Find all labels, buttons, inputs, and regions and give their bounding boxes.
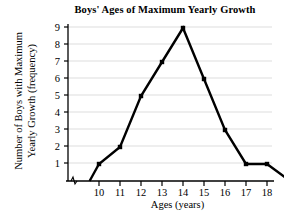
data-point-marker bbox=[97, 162, 101, 166]
data-point-marker bbox=[139, 94, 143, 98]
data-point-marker bbox=[244, 162, 248, 166]
data-point-marker bbox=[223, 128, 227, 132]
x-tick-label: 13 bbox=[157, 187, 168, 198]
x-axis-label: Ages (years) bbox=[80, 199, 275, 210]
data-point-marker bbox=[118, 145, 122, 149]
data-point-marker bbox=[202, 77, 206, 81]
x-tick-labels: 10 11 12 13 14 15 16 17 18 bbox=[94, 187, 273, 198]
x-axis-ticks bbox=[99, 181, 267, 186]
x-tick-label: 10 bbox=[94, 187, 105, 198]
y-tick-label: 4 bbox=[55, 107, 61, 118]
chart-figure: Boys' Ages of Maximum Yearly Growth Numb… bbox=[0, 0, 284, 222]
y-tick-label: 7 bbox=[55, 56, 60, 67]
plot-area: 9 8 7 6 5 4 3 2 1 10 11 12 13 bbox=[0, 0, 284, 222]
y-tick-label: 5 bbox=[55, 90, 60, 101]
data-point-marker bbox=[181, 26, 185, 30]
x-tick-label: 14 bbox=[178, 187, 189, 198]
y-tick-label: 8 bbox=[55, 39, 60, 50]
x-tick-label: 16 bbox=[220, 187, 231, 198]
y-tick-label: 6 bbox=[55, 73, 60, 84]
data-point-marker bbox=[160, 60, 164, 64]
x-tick-label: 11 bbox=[115, 187, 125, 198]
y-tick-label: 9 bbox=[55, 22, 60, 33]
x-tick-label: 17 bbox=[241, 187, 252, 198]
y-tick-labels: 9 8 7 6 5 4 3 2 1 bbox=[55, 22, 61, 169]
data-line-series bbox=[90, 28, 284, 181]
x-tick-label: 15 bbox=[199, 187, 210, 198]
y-tick-label: 2 bbox=[55, 141, 60, 152]
x-tick-label: 12 bbox=[136, 187, 147, 198]
y-tick-label: 1 bbox=[55, 158, 60, 169]
y-tick-label: 3 bbox=[55, 124, 60, 135]
data-point-marker bbox=[265, 162, 269, 166]
data-point-markers bbox=[97, 26, 269, 166]
x-tick-label: 18 bbox=[262, 187, 273, 198]
